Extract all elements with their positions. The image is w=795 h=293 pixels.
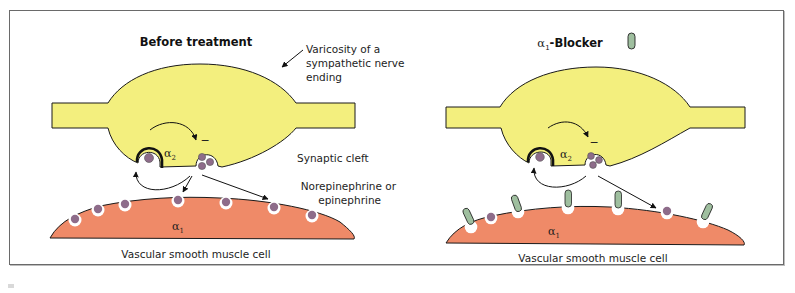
panel-title-blocker: α1-Blocker xyxy=(537,36,603,52)
blocker-molecule xyxy=(565,190,572,207)
vesicle xyxy=(588,153,595,160)
reuptake-arrow xyxy=(534,168,586,187)
release-arrow xyxy=(598,176,656,208)
transmitter-label-1: Norepinephrine or xyxy=(301,180,397,192)
reuptake-arrow xyxy=(136,172,190,190)
cell-label-left: Vascular smooth muscle cell xyxy=(121,248,270,260)
varicosity-pointer xyxy=(282,50,303,67)
inhibition-mark-left: − xyxy=(200,134,209,147)
varicosity-label-2: sympathetic nerve xyxy=(306,57,405,69)
blocker-molecule xyxy=(700,202,713,220)
vesicle xyxy=(206,158,213,165)
synaptic-cleft-label: Synaptic cleft xyxy=(297,152,369,164)
vesicle xyxy=(487,213,495,221)
blocker-legend-icon xyxy=(628,33,635,49)
vesicle xyxy=(198,162,205,169)
vesicle xyxy=(596,157,603,164)
diagram-canvas: Before treatment α2 − α1 Vascular smo xyxy=(0,0,795,293)
panel-alpha1-blocker: α1-Blocker α2 − α1 Vascular smoo xyxy=(446,33,745,264)
blocker-molecule xyxy=(462,207,475,225)
vesicle xyxy=(198,153,205,160)
panel-title-before: Before treatment xyxy=(140,35,253,49)
inhibition-mark-right: − xyxy=(589,136,598,149)
vesicle xyxy=(590,162,597,169)
panel-before-treatment: Before treatment α2 − α1 Vascular smo xyxy=(50,35,405,260)
vesicle xyxy=(145,154,154,163)
vesicle xyxy=(663,207,671,215)
varicosity-label-1: Varicosity of a xyxy=(306,43,380,55)
transmitter-label-2: epinephrine xyxy=(318,194,381,206)
footer-mark xyxy=(8,284,14,288)
nerve-varicosity-right xyxy=(446,67,745,166)
release-arrow xyxy=(202,175,268,199)
blocker-molecule xyxy=(615,191,622,208)
cell-label-right: Vascular smooth muscle cell xyxy=(518,252,667,264)
varicosity-label-3: ending xyxy=(306,71,342,83)
vesicle xyxy=(536,153,545,162)
